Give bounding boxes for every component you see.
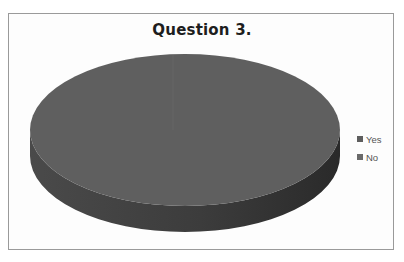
legend-label-no: No bbox=[366, 152, 378, 163]
legend-swatch-yes bbox=[357, 136, 363, 142]
pie-slice-yes[interactable] bbox=[30, 54, 340, 206]
legend-label-yes: Yes bbox=[366, 134, 382, 145]
legend: Yes No bbox=[357, 130, 382, 166]
legend-swatch-no bbox=[357, 154, 363, 160]
legend-item-yes[interactable]: Yes bbox=[357, 130, 382, 148]
pie-chart bbox=[0, 0, 404, 262]
legend-item-no[interactable]: No bbox=[357, 148, 382, 166]
